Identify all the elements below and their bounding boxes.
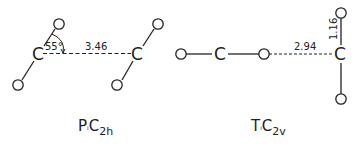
oxygen-atom (153, 19, 163, 29)
oxygen-atom (112, 80, 122, 90)
carbon-atom: C (214, 44, 226, 64)
bond-length-label: 1.16 (328, 18, 339, 40)
distance-label: 2.94 (294, 41, 316, 52)
carbon-atom: C (131, 44, 143, 64)
oxygen-atom (13, 80, 23, 90)
angle-label: 55° (45, 41, 63, 52)
carbon-atom: C (32, 44, 44, 64)
oxygen-atom (259, 49, 269, 59)
oxygen-atom (176, 49, 186, 59)
carbon-atom: C (334, 44, 346, 64)
oxygen-atom (54, 19, 64, 29)
co2-dimer-diagram: C 55° 3.46 C PᵢC2h C 2.94 C 1.16 TᵢC2v (0, 0, 361, 150)
left-structure: C 55° 3.46 C PᵢC2h (13, 19, 163, 138)
symmetry-caption-right: TᵢC2v (250, 117, 286, 138)
symmetry-caption-left: PᵢC2h (78, 117, 113, 138)
oxygen-atom (336, 8, 346, 18)
distance-label: 3.46 (85, 41, 107, 52)
right-structure: C 2.94 C 1.16 TᵢC2v (176, 8, 346, 138)
bond (143, 29, 154, 46)
oxygen-atom (336, 94, 346, 104)
